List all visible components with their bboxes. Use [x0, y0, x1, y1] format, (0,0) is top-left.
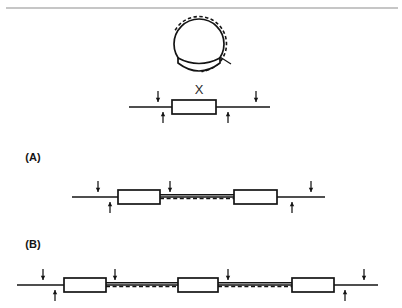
- panel-label-a: (A): [25, 151, 41, 163]
- direct-repeat-arrow-head: [156, 98, 160, 102]
- panel-label-b: (B): [25, 238, 41, 250]
- direct-repeat-arrow-head: [41, 276, 45, 280]
- inserted-element-box: [64, 278, 106, 292]
- panel-a-group: [72, 181, 325, 213]
- inserted-element-box: [234, 190, 277, 204]
- donor-circle-group: [174, 17, 231, 72]
- panel-b-group: [17, 269, 378, 301]
- direct-repeat-arrow-head: [226, 276, 230, 280]
- diagram-canvas: X (A) (B): [0, 0, 402, 308]
- inserted-element-box: [172, 100, 216, 114]
- panels-layer: [17, 91, 378, 301]
- direct-repeat-arrow-head: [161, 112, 165, 116]
- direct-repeat-arrow-head: [254, 98, 258, 102]
- direct-repeat-arrow-head: [362, 276, 366, 280]
- direct-repeat-arrow-head: [309, 188, 313, 192]
- figure-root: X (A) (B): [0, 0, 402, 308]
- inserted-element-box: [178, 278, 218, 292]
- direct-repeat-arrow-head: [290, 202, 294, 206]
- direct-repeat-arrow-head: [108, 202, 112, 206]
- inserted-element-box: [118, 190, 160, 204]
- direct-repeat-arrow-head: [168, 188, 172, 192]
- element-label-x: X: [195, 82, 204, 97]
- direct-repeat-arrow-head: [53, 290, 57, 294]
- inserted-element-box: [292, 278, 334, 292]
- direct-repeat-arrow-head: [343, 290, 347, 294]
- direct-repeat-arrow-head: [113, 276, 117, 280]
- direct-repeat-arrow-head: [226, 112, 230, 116]
- direct-repeat-arrow-head: [96, 188, 100, 192]
